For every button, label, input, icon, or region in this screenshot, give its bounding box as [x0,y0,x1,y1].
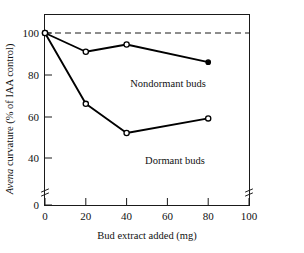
x-tick-label-60: 60 [162,210,174,222]
y-tick-labels: 100 80 60 40 0 [23,27,40,211]
y-tick-label-60: 60 [28,111,40,123]
y-axis-title-italic: Avena [4,169,15,196]
x-axis-ticks [45,198,249,205]
x-axis-title: Bud extract added (mg) [97,230,197,242]
x-tick-labels: 0 20 40 60 80 100 [42,210,258,222]
y-tick-label-40: 40 [28,152,40,164]
data-point [124,42,129,47]
series-label-nondormant-buds: Nondormant buds [130,78,206,89]
x-tick-label-20: 20 [80,210,92,222]
x-tick-label-0: 0 [42,210,48,222]
y-axis-title-rest: curvature (% of IAA control) [4,43,16,169]
y-tick-label-100: 100 [23,27,40,39]
data-point [42,30,47,35]
series-label-dormant-buds: Dormant buds [145,155,205,166]
x-tick-label-80: 80 [203,210,215,222]
data-point [124,130,129,135]
y-tick-label-0: 0 [34,199,40,211]
y-axis-title: Avena curvature (% of IAA control) [4,43,16,195]
data-point [206,116,211,121]
data-point [83,101,88,106]
markers-nondormant-buds [42,30,210,64]
y-tick-label-80: 80 [28,69,40,81]
data-point [83,49,88,54]
y-axis-ticks [45,33,52,205]
data-point [206,60,210,64]
avena-curvature-line-chart: 100 80 60 40 0 0 20 40 60 80 100 Bud ext… [0,0,304,253]
chart-figure: 100 80 60 40 0 0 20 40 60 80 100 Bud ext… [0,0,304,253]
x-tick-label-40: 40 [121,210,133,222]
x-tick-label-100: 100 [241,210,258,222]
plot-frame [45,15,250,206]
